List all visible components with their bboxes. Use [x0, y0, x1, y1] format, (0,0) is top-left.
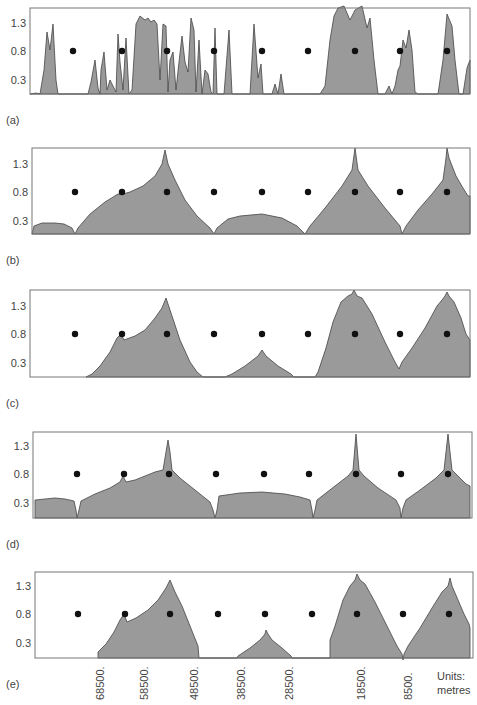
reference-dot	[164, 331, 170, 337]
reference-dot	[309, 611, 315, 617]
reference-dot	[259, 331, 265, 337]
reference-dot	[211, 48, 217, 54]
x-tick-label: 48500.	[188, 666, 200, 700]
y-tick-label: 0.3	[11, 74, 26, 86]
reference-dot	[72, 189, 78, 195]
reference-dot	[74, 471, 80, 477]
reference-dot	[400, 611, 406, 617]
reference-dot	[352, 189, 358, 195]
reference-dot	[75, 611, 81, 617]
x-tick-label: 58500.	[138, 666, 150, 700]
panel-label: (d)	[6, 538, 19, 550]
x-tick-label: 28500.	[283, 666, 295, 700]
y-tick-label: 0.3	[13, 215, 28, 227]
x-tick-label: 68500.	[94, 666, 106, 700]
reference-dot	[164, 189, 170, 195]
panel-c: 0.30.81.3(c)	[6, 290, 470, 409]
reference-dot	[119, 189, 125, 195]
reference-dot	[166, 471, 172, 477]
y-tick-label: 0.8	[11, 45, 26, 57]
panel-label: (a)	[6, 114, 19, 126]
reference-dot	[259, 189, 265, 195]
reference-dot	[164, 48, 170, 54]
reference-dot	[259, 48, 265, 54]
y-tick-label: 0.8	[16, 608, 31, 620]
x-tick-label: 18500.	[355, 666, 367, 700]
panel-d: 0.30.81.3(d)	[6, 432, 472, 550]
y-tick-label: 0.8	[11, 328, 26, 340]
reference-dot	[446, 611, 452, 617]
reference-dot	[119, 331, 125, 337]
reference-dot	[306, 471, 312, 477]
reference-dot	[215, 611, 221, 617]
reference-dot	[397, 189, 403, 195]
reference-dot	[353, 471, 359, 477]
profile-area	[86, 290, 470, 377]
units-label-line2: metres	[437, 684, 471, 696]
reference-dot	[444, 189, 450, 195]
reference-dot	[119, 48, 125, 54]
reference-dot	[261, 471, 267, 477]
reference-dot	[262, 611, 268, 617]
y-tick-label: 0.8	[13, 186, 28, 198]
y-tick-label: 0.3	[16, 637, 31, 649]
reference-dot	[444, 331, 450, 337]
panels-group: 0.30.81.3(a)0.30.81.3(b)0.30.81.3(c)0.30…	[6, 6, 473, 690]
reference-dot	[121, 471, 127, 477]
profile-area	[35, 434, 470, 518]
y-tick-label: 1.3	[11, 300, 26, 312]
y-tick-label: 1.3	[13, 158, 28, 170]
profile-area	[98, 574, 470, 660]
reference-dot	[72, 331, 78, 337]
profile-area	[30, 6, 470, 94]
panel-label: (c)	[6, 397, 19, 409]
profile-figure: 0.30.81.3(a)0.30.81.3(b)0.30.81.3(c)0.30…	[0, 0, 477, 705]
reference-dot	[122, 611, 128, 617]
reference-dot	[397, 48, 403, 54]
profile-area	[32, 148, 470, 234]
y-tick-label: 0.3	[14, 497, 29, 509]
reference-dot	[305, 331, 311, 337]
y-tick-label: 1.3	[14, 440, 29, 452]
reference-dot	[354, 611, 360, 617]
reference-dot	[445, 471, 451, 477]
x-axis: 68500.58500.48500.38500.28500.18500.8500…	[94, 666, 414, 700]
x-tick-label: 38500.	[235, 666, 247, 700]
reference-dot	[211, 189, 217, 195]
panel-label: (e)	[6, 678, 19, 690]
reference-dot	[398, 471, 404, 477]
reference-dot	[305, 48, 311, 54]
panel-a: 0.30.81.3(a)	[6, 6, 470, 126]
y-tick-label: 1.3	[16, 580, 31, 592]
reference-dot	[444, 48, 450, 54]
reference-dot	[167, 611, 173, 617]
y-tick-label: 1.3	[11, 17, 26, 29]
reference-dot	[305, 189, 311, 195]
reference-dot	[352, 331, 358, 337]
panel-label: (b)	[6, 254, 19, 266]
reference-dot	[352, 48, 358, 54]
y-tick-label: 0.3	[11, 357, 26, 369]
reference-dot	[213, 471, 219, 477]
reference-dot	[70, 48, 76, 54]
panel-b: 0.30.81.3(b)	[6, 148, 470, 266]
units-label-line1: Units:	[437, 670, 465, 682]
y-tick-label: 0.8	[14, 468, 29, 480]
reference-dot	[397, 331, 403, 337]
x-tick-label: 8500.	[402, 672, 414, 700]
reference-dot	[211, 331, 217, 337]
